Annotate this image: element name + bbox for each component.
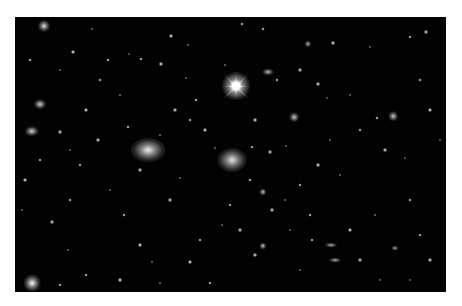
star xyxy=(59,284,62,287)
star xyxy=(188,260,192,264)
star xyxy=(404,157,406,159)
star xyxy=(21,209,23,211)
star xyxy=(96,138,100,142)
star xyxy=(195,99,198,102)
galaxy xyxy=(325,243,337,248)
galaxy xyxy=(391,246,398,251)
star xyxy=(119,94,121,96)
galaxy xyxy=(289,112,299,122)
star xyxy=(253,253,257,257)
star xyxy=(199,239,202,242)
star xyxy=(159,62,163,66)
star xyxy=(91,28,93,30)
star xyxy=(369,46,371,48)
galaxy xyxy=(25,126,39,136)
star xyxy=(298,68,302,72)
star xyxy=(419,79,422,82)
star xyxy=(99,79,102,82)
star xyxy=(349,94,351,96)
star xyxy=(376,117,379,120)
star xyxy=(316,82,320,86)
star xyxy=(58,130,62,134)
star xyxy=(249,179,252,182)
star xyxy=(284,199,286,201)
star xyxy=(276,79,279,82)
star xyxy=(439,139,441,141)
star xyxy=(214,147,216,149)
galaxy xyxy=(329,258,341,263)
star xyxy=(79,164,82,167)
star xyxy=(179,177,181,179)
galaxy xyxy=(24,275,41,292)
star xyxy=(168,198,172,202)
galaxy xyxy=(131,138,165,162)
star xyxy=(379,279,381,281)
galaxy xyxy=(218,148,247,172)
star xyxy=(229,204,232,207)
star xyxy=(50,220,54,224)
star xyxy=(238,228,242,232)
star xyxy=(39,159,42,162)
star xyxy=(348,228,352,232)
galaxy xyxy=(259,242,266,249)
star xyxy=(107,59,110,62)
star xyxy=(209,282,212,285)
star xyxy=(159,134,161,136)
star xyxy=(409,36,412,39)
star xyxy=(84,108,88,112)
star xyxy=(409,279,411,281)
galaxy xyxy=(38,20,50,32)
star xyxy=(424,30,428,34)
star xyxy=(67,249,69,251)
star xyxy=(253,118,257,122)
star xyxy=(339,174,341,176)
star xyxy=(203,128,207,132)
star xyxy=(118,278,122,282)
star xyxy=(428,108,432,112)
star xyxy=(85,274,88,277)
star xyxy=(316,163,320,167)
star xyxy=(359,129,362,132)
star xyxy=(311,239,314,242)
star xyxy=(71,50,75,54)
star xyxy=(409,199,412,202)
star xyxy=(127,126,130,129)
star xyxy=(187,44,189,46)
star xyxy=(358,258,362,262)
star xyxy=(428,258,432,262)
galaxy xyxy=(34,99,46,109)
star xyxy=(299,269,301,271)
star xyxy=(138,168,142,172)
star xyxy=(123,214,126,217)
star xyxy=(383,148,387,152)
star xyxy=(309,214,312,217)
galaxy xyxy=(259,188,266,195)
star xyxy=(138,243,142,247)
star xyxy=(59,69,61,71)
star xyxy=(268,150,272,154)
star xyxy=(289,229,291,231)
astronomical-image xyxy=(15,17,446,292)
star xyxy=(262,28,265,31)
star xyxy=(151,261,153,263)
star xyxy=(331,41,335,45)
star xyxy=(285,145,287,147)
star xyxy=(140,58,143,61)
star xyxy=(299,184,302,187)
star xyxy=(329,139,331,141)
star xyxy=(173,108,177,112)
star xyxy=(69,199,72,202)
star xyxy=(224,64,226,66)
star xyxy=(109,189,111,191)
galaxy xyxy=(262,68,274,75)
star xyxy=(270,208,274,212)
star xyxy=(185,77,187,79)
star xyxy=(251,146,254,149)
star xyxy=(189,119,192,122)
star xyxy=(69,149,71,151)
galaxy xyxy=(304,40,311,47)
star xyxy=(419,234,422,237)
star xyxy=(128,53,130,55)
star xyxy=(23,178,27,182)
star xyxy=(159,282,161,284)
